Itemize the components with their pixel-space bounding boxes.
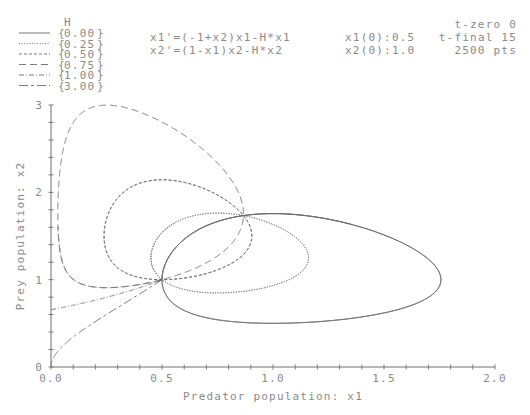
equations-block: x1'=(-1+x2)x1-H*x1 x2'=(1-x1)x2-H*x2: [150, 31, 291, 57]
trajectory-h-1-00: [51, 280, 162, 310]
x-axis-label: Predator population: x1: [183, 390, 363, 403]
y-tick-label: 1: [35, 274, 43, 287]
y-tick-label: 2: [35, 186, 43, 199]
points-label: 2500 pts: [454, 44, 517, 57]
y-tick-label: 3: [35, 99, 43, 112]
equation-x2: x2'=(1-x1)x2-H*x2: [150, 44, 283, 57]
trajectory-h-0-25: [151, 213, 309, 293]
x-tick-label: 1.0: [261, 372, 284, 385]
x-tick-label: 0.5: [150, 372, 173, 385]
initial-condition-x2: x2(0):1.0: [345, 44, 415, 57]
x-tick-label: 2.0: [483, 372, 506, 385]
initial-conditions-block: x1(0):0.5 x2(0):1.0: [345, 31, 415, 57]
legend-label: 3.00: [64, 80, 95, 93]
trajectory-h-3-00: [51, 280, 162, 367]
equation-x1: x1'=(-1+x2)x1-H*x1: [150, 31, 291, 44]
x-tick-label: 1.5: [372, 372, 395, 385]
legend-brace: }: [97, 80, 105, 93]
t-final-label: t-final 15: [439, 31, 517, 44]
trajectory-h-0-75: [58, 105, 244, 288]
initial-condition-x1: x1(0):0.5: [345, 31, 415, 44]
trajectory-h-0-50: [104, 180, 252, 280]
y-axis-label: Prey population: x2: [14, 162, 27, 311]
t-zero-label: t-zero 0: [454, 18, 517, 31]
y-tick-label: 0: [35, 361, 43, 374]
phase-plot: H {0.00}{0.25}{0.50}{0.75}{1.00}{3.00} x…: [0, 0, 530, 415]
trajectories: [51, 105, 441, 367]
axes: 0.00.51.01.52.0 0123 Predator population…: [14, 99, 507, 403]
legend: H {0.00}{0.25}{0.50}{0.75}{1.00}{3.00}: [19, 16, 105, 93]
time-info-block: t-zero 0 t-final 15 2500 pts: [439, 18, 517, 57]
trajectory-h-0-00: [162, 214, 441, 324]
